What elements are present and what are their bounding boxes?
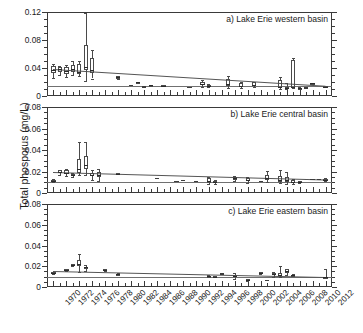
y-tick-minor bbox=[44, 261, 47, 262]
cap-lower bbox=[97, 181, 100, 182]
cap-lower bbox=[214, 184, 217, 185]
y-tick-minor bbox=[44, 47, 47, 48]
y-tick-minor-right bbox=[332, 134, 335, 135]
median-line bbox=[259, 273, 263, 274]
y-tick-major bbox=[42, 172, 47, 173]
y-tick-minor-right bbox=[332, 82, 335, 83]
y-tick-minor-right bbox=[332, 220, 335, 221]
cap-lower bbox=[279, 89, 282, 90]
cap-lower bbox=[279, 183, 282, 184]
y-tick-minor-right bbox=[332, 251, 335, 252]
y-tick-minor bbox=[44, 177, 47, 178]
median-line bbox=[90, 70, 94, 71]
x-tick-minor bbox=[319, 189, 320, 193]
x-tick-minor bbox=[241, 283, 242, 287]
cap-lower bbox=[233, 279, 236, 280]
x-tick-major bbox=[105, 187, 106, 193]
y-tick-minor-right bbox=[332, 118, 335, 119]
y-tick-minor bbox=[44, 230, 47, 231]
x-tick-major bbox=[79, 187, 80, 193]
median-line bbox=[116, 77, 120, 78]
y-tick-minor bbox=[44, 82, 47, 83]
median-line bbox=[278, 87, 282, 88]
figure-container: Total phosporus (mg/L) a) Lake Erie west… bbox=[0, 0, 363, 333]
y-tick-major bbox=[42, 40, 47, 41]
y-tick-minor-right bbox=[332, 155, 335, 156]
x-tick-major bbox=[79, 281, 80, 287]
x-tick-minor bbox=[215, 283, 216, 287]
x-tick-major bbox=[235, 187, 236, 193]
median-line bbox=[285, 88, 289, 89]
median-line bbox=[71, 69, 75, 70]
y-tick-minor bbox=[44, 271, 47, 272]
y-tick-minor-right bbox=[332, 235, 335, 236]
cap-lower bbox=[240, 88, 243, 89]
x-tick-minor bbox=[112, 92, 113, 96]
x-tick-major bbox=[274, 187, 275, 193]
cap-upper bbox=[78, 254, 81, 255]
x-tick-minor bbox=[112, 283, 113, 287]
x-tick-major bbox=[170, 281, 171, 287]
x-tick-minor bbox=[254, 92, 255, 96]
x-tick-major bbox=[209, 281, 210, 287]
y-tick-label: 0 bbox=[36, 91, 41, 101]
y-tick-minor-right bbox=[332, 89, 335, 90]
cap-lower bbox=[246, 183, 249, 184]
panel-title-a: a) Lake Erie western basin bbox=[226, 14, 328, 24]
y-tick-label: 0.06 bbox=[25, 220, 41, 230]
y-tick-minor-right bbox=[332, 177, 335, 178]
y-tick-minor-right bbox=[332, 33, 335, 34]
median-line bbox=[84, 67, 88, 68]
y-tick-minor-right bbox=[332, 230, 335, 231]
cap-lower bbox=[272, 277, 275, 278]
median-line bbox=[252, 85, 256, 86]
x-tick-major bbox=[222, 90, 223, 96]
cap-lower bbox=[227, 88, 230, 89]
cap-lower bbox=[78, 175, 81, 176]
x-tick-minor bbox=[99, 283, 100, 287]
x-tick-minor bbox=[112, 189, 113, 193]
y-tick-label: 0.08 bbox=[25, 102, 41, 112]
cap-lower bbox=[52, 78, 55, 79]
x-tick-major bbox=[183, 281, 184, 287]
whisker-upper bbox=[86, 142, 87, 155]
x-tick-minor bbox=[280, 283, 281, 287]
x-tick-major bbox=[222, 187, 223, 193]
median-line bbox=[200, 84, 204, 85]
x-tick-major bbox=[144, 90, 145, 96]
y-tick-major-right bbox=[332, 150, 337, 151]
y-tick-minor bbox=[44, 19, 47, 20]
median-line bbox=[278, 180, 282, 181]
y-tick-minor bbox=[44, 161, 47, 162]
median-line bbox=[207, 276, 211, 277]
median-line bbox=[291, 182, 295, 183]
cap-upper bbox=[91, 170, 94, 171]
cap-lower bbox=[78, 272, 81, 273]
median-line bbox=[64, 71, 68, 72]
x-tick-major bbox=[313, 187, 314, 193]
x-tick-major bbox=[92, 187, 93, 193]
y-tick-minor bbox=[44, 188, 47, 189]
x-tick-major bbox=[118, 187, 119, 193]
y-tick-major-right bbox=[332, 68, 337, 69]
median-line bbox=[213, 277, 217, 278]
x-tick-major bbox=[326, 90, 327, 96]
y-tick-minor bbox=[44, 166, 47, 167]
x-tick-major bbox=[287, 90, 288, 96]
y-tick-major-right bbox=[332, 96, 337, 97]
cap-lower bbox=[207, 184, 210, 185]
cap-lower bbox=[285, 184, 288, 185]
x-tick-major bbox=[157, 187, 158, 193]
cap-lower bbox=[84, 175, 87, 176]
x-tick-minor bbox=[267, 92, 268, 96]
x-tick-major bbox=[261, 281, 262, 287]
y-tick-minor bbox=[44, 145, 47, 146]
x-tick-minor bbox=[177, 92, 178, 96]
y-tick-major-right bbox=[332, 129, 337, 130]
y-tick-minor bbox=[44, 134, 47, 135]
y-tick-minor-right bbox=[332, 26, 335, 27]
x-tick-minor bbox=[254, 283, 255, 287]
cap-upper bbox=[78, 142, 81, 143]
y-tick-major bbox=[42, 107, 47, 108]
median-line bbox=[149, 85, 153, 86]
